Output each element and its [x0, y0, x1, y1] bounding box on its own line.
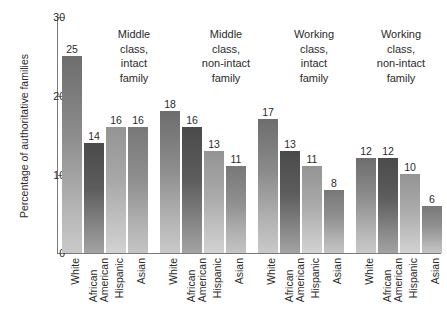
bar-g2-african-american	[280, 151, 300, 253]
x-label-g3-white-line1: White	[363, 258, 375, 285]
x-label-g3-hispanic: Hispanic	[408, 258, 419, 298]
bar-g0-african-american	[84, 143, 104, 253]
x-label-g2-hispanic: Hispanic	[310, 258, 321, 298]
x-label-g2-white: White	[266, 258, 277, 285]
bar-value-g3-hispanic: 10	[396, 162, 424, 173]
x-label-g3-aa-line2: American	[393, 258, 404, 302]
bar-g2-hispanic	[302, 166, 322, 253]
x-label-g2-hispanic-line1: Hispanic	[309, 258, 321, 298]
bar-value-g1-hispanic: 13	[200, 139, 228, 150]
bar-value-g3-african-american: 12	[374, 146, 402, 157]
x-label-g0-hispanic-line1: Hispanic	[113, 258, 125, 298]
x-label-g0-white-line1: White	[69, 258, 81, 285]
bar-g1-african-american	[182, 127, 202, 253]
x-label-g3-african-american: African American	[382, 258, 403, 302]
bar-value-g1-african-american: 16	[178, 115, 206, 126]
x-label-g0-asian-line1: Asian	[135, 258, 147, 284]
bar-g0-hispanic	[106, 127, 126, 253]
x-label-g3-asian: Asian	[430, 258, 441, 284]
x-label-g1-aa-line2: American	[197, 258, 208, 302]
bar-g1-asian	[226, 166, 246, 253]
x-label-g1-asian-line1: Asian	[233, 258, 245, 284]
x-axis-line	[57, 253, 441, 254]
x-label-g2-aa-line2: American	[295, 258, 306, 302]
plot-area: 25 14 16 16 18 16 13 11 17 13 11 8 12 12…	[58, 17, 441, 253]
bar-g0-asian	[128, 127, 148, 253]
x-label-g1-hispanic-line1: Hispanic	[211, 258, 223, 298]
x-label-g3-hispanic-line1: Hispanic	[407, 258, 419, 298]
x-label-g0-asian: Asian	[136, 258, 147, 284]
bar-g1-white	[160, 111, 180, 253]
bar-value-g2-african-american: 13	[276, 139, 304, 150]
x-label-g0-white: White	[70, 258, 81, 285]
bar-value-g2-white: 17	[254, 107, 282, 118]
y-axis-title: Percentage of authoritative families	[18, 26, 30, 246]
x-label-g0-aa-line2: American	[99, 258, 110, 302]
bar-value-g2-asian: 8	[320, 178, 348, 189]
x-label-g1-hispanic: Hispanic	[212, 258, 223, 298]
x-label-g1-african-american: African American	[186, 258, 207, 302]
bar-g3-asian	[422, 206, 442, 253]
x-label-g2-asian-line1: Asian	[331, 258, 343, 284]
x-label-g0-hispanic: Hispanic	[114, 258, 125, 298]
bar-g3-african-american	[378, 158, 398, 253]
bar-g3-hispanic	[400, 174, 420, 253]
x-label-g2-african-american: African American	[284, 258, 305, 302]
bar-value-g1-white: 18	[156, 99, 184, 110]
bar-g2-asian	[324, 190, 344, 253]
x-label-g2-asian: Asian	[332, 258, 343, 284]
bar-g3-white	[356, 158, 376, 253]
bar-value-g0-african-american: 14	[80, 131, 108, 142]
bar-g0-white	[62, 56, 82, 253]
x-label-g0-african-american: African American	[88, 258, 109, 302]
bar-g1-hispanic	[204, 151, 224, 253]
bar-value-g1-asian: 11	[222, 154, 250, 165]
bar-value-g0-asian: 16	[124, 115, 152, 126]
x-label-g1-asian: Asian	[234, 258, 245, 284]
bar-value-g0-white: 25	[58, 44, 86, 55]
x-label-g3-asian-line1: Asian	[429, 258, 441, 284]
bar-g2-white	[258, 119, 278, 253]
x-label-g1-white: White	[168, 258, 179, 285]
bar-value-g3-asian: 6	[418, 194, 446, 205]
x-label-g1-white-line1: White	[167, 258, 179, 285]
x-label-g3-white: White	[364, 258, 375, 285]
bar-value-g2-hispanic: 11	[298, 154, 326, 165]
x-label-g2-white-line1: White	[265, 258, 277, 285]
chart-figure: Percentage of authoritative families 30 …	[0, 0, 447, 314]
